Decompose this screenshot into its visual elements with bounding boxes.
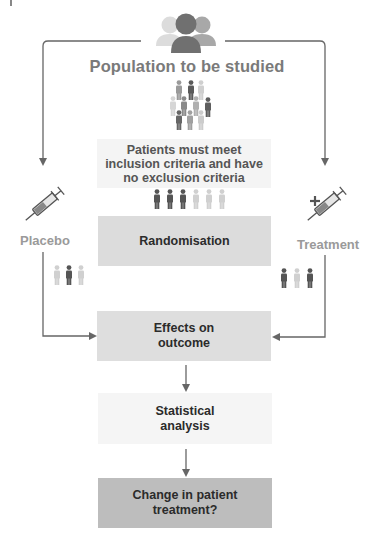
syringe-icon xyxy=(22,186,65,225)
randomisation-label: Randomisation xyxy=(139,234,229,249)
change-line-1: Change in patient xyxy=(133,488,238,503)
plus-icon xyxy=(310,196,320,206)
effects-line-2: outcome xyxy=(154,336,214,351)
change-box: Change in patient treatment? xyxy=(98,478,272,528)
criteria-line-2: inclusion criteria and have xyxy=(105,157,263,171)
statistical-line-2: analysis xyxy=(155,419,214,434)
effects-line-1: Effects on xyxy=(154,321,214,336)
change-line-2: treatment? xyxy=(133,503,238,518)
six-people-icon xyxy=(154,189,225,209)
group-people-icon xyxy=(156,14,216,54)
placebo-label: Placebo xyxy=(20,233,70,248)
statistical-box: Statistical analysis xyxy=(98,393,272,444)
page-title: Population to be studied xyxy=(0,57,374,76)
connector-lines xyxy=(0,0,374,541)
treatment-label: Treatment xyxy=(297,237,359,252)
criteria-line-3: no exclusion criteria xyxy=(105,171,263,185)
randomisation-box: Randomisation xyxy=(98,216,271,266)
criteria-box: Patients must meet inclusion criteria an… xyxy=(97,139,271,188)
syringe-plus-icon xyxy=(304,186,347,225)
crowd-icon xyxy=(170,80,211,130)
effects-box: Effects on outcome xyxy=(97,311,271,361)
statistical-line-1: Statistical xyxy=(155,404,214,419)
treatment-group-icon xyxy=(281,268,313,288)
placebo-group-icon xyxy=(54,265,84,285)
criteria-line-1: Patients must meet xyxy=(105,143,263,157)
